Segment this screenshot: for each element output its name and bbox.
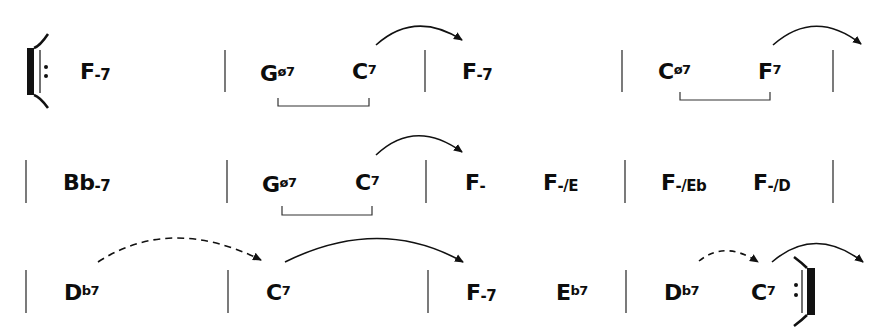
notation-graphics xyxy=(0,0,873,333)
chord-db7: Db7 xyxy=(64,282,99,304)
arrow-c7-to-fm7-long xyxy=(285,239,463,263)
chord-fm7: F-7 xyxy=(462,61,492,83)
chord-fm7: F-7 xyxy=(80,61,110,83)
chord-g-half-dim7: Gø7 xyxy=(260,63,295,85)
chord-c7: C7 xyxy=(352,61,376,83)
arrow-f7-to-next xyxy=(773,26,861,45)
chord-fm7: F-7 xyxy=(466,282,496,304)
chord-c7: C7 xyxy=(266,282,290,304)
chord-f7: F7 xyxy=(758,61,781,83)
arrow-c7-to-fm7 xyxy=(376,26,462,45)
chord-c-half-dim7: Cø7 xyxy=(658,61,691,83)
arrow-c7-to-top xyxy=(772,244,863,263)
arrow-c7-to-fm xyxy=(376,136,462,155)
repeat-close-icon xyxy=(794,257,815,326)
arrow-db7-to-c7-short-dashed xyxy=(699,251,758,262)
chord-db7: Db7 xyxy=(664,282,699,304)
barlines xyxy=(26,50,833,313)
chord-eb7: Eb7 xyxy=(556,282,588,304)
chord-g-half-dim7: Gø7 xyxy=(262,174,297,196)
repeat-open-icon xyxy=(27,34,48,108)
chord-c7: C7 xyxy=(751,282,775,304)
ii-v-brackets xyxy=(278,92,770,215)
arrow-db7-to-c7-dashed xyxy=(98,238,261,262)
chord-fm-over-e: F-/E xyxy=(543,172,578,194)
chord-fm-over-d: F-/D xyxy=(753,172,790,194)
chord-fm-over-eb: F-/Eb xyxy=(661,172,706,194)
chord-fm: F- xyxy=(465,172,485,194)
chord-c7: C7 xyxy=(355,172,379,194)
chord-bbm7: Bb-7 xyxy=(63,172,110,194)
